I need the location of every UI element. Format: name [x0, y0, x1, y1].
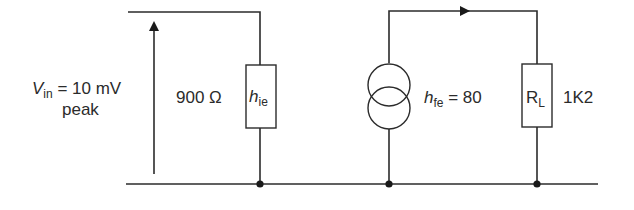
junction-dot-hie [256, 180, 263, 187]
junction-dot-load [533, 180, 540, 187]
vin-symbol: V [32, 79, 43, 98]
hie-value-label: 900 Ω [176, 89, 222, 106]
hfe-label: hfe = 80 [424, 89, 482, 109]
vin-label: Vin = 10 mV [32, 80, 121, 100]
current-source-circle-bottom [368, 87, 410, 129]
hie-subscript: ie [258, 95, 267, 109]
rl-symbol-label: RL [526, 89, 545, 109]
rl-symbol: R [526, 88, 538, 107]
vin-peak-label: peak [62, 101, 99, 118]
vin-value: = 10 mV [53, 79, 122, 98]
hfe-value: = 80 [443, 88, 481, 107]
output-top-wire [389, 11, 537, 64]
input-top-wire [128, 12, 260, 65]
hie-symbol-label: hie [249, 88, 268, 108]
rl-value-label: 1K2 [563, 89, 593, 106]
current-direction-arrow-icon [460, 6, 470, 16]
rl-subscript: L [538, 96, 545, 110]
current-source-circle-top [368, 64, 410, 106]
vin-arrow-head-icon [149, 21, 159, 31]
vin-subscript: in [43, 87, 52, 101]
junction-dot-source [385, 180, 392, 187]
hfe-subscript: fe [433, 96, 443, 110]
